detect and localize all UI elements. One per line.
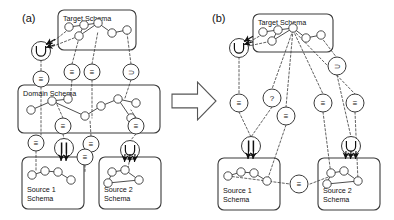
- mapping-arrow: [253, 151, 254, 159]
- mapping-arrow: [130, 154, 131, 162]
- schema-node: [340, 167, 348, 175]
- operator-node[interactable]: [242, 137, 261, 156]
- schema-node: [123, 26, 131, 34]
- mapping-arrow: [351, 151, 352, 159]
- operator-node[interactable]: ≡: [290, 175, 308, 193]
- operator-glyph: ≡: [297, 180, 302, 189]
- operator-glyph: ⊃: [128, 68, 135, 77]
- schema-node: [114, 95, 122, 103]
- schema-node: [80, 21, 88, 29]
- mapping-arrow: [66, 153, 67, 161]
- operator-glyph: ≡: [90, 68, 95, 77]
- operator-node[interactable]: ≡: [277, 107, 295, 125]
- schema-node: [237, 168, 245, 176]
- figure-canvas: Target SchemaDomain SchemaSource 1Schema…: [0, 0, 394, 220]
- schema-node: [75, 32, 83, 40]
- schema-node: [259, 28, 267, 36]
- operator-node[interactable]: ≡: [55, 118, 71, 134]
- schema-mapping-diagram: Target SchemaDomain SchemaSource 1Schema…: [0, 0, 394, 220]
- schema-node: [263, 177, 271, 185]
- operator-node[interactable]: ?: [263, 89, 281, 107]
- operator-glyph: ⊃: [334, 62, 341, 71]
- schema-box: Source 1Schema: [218, 158, 280, 210]
- schema-box-label: Source 1: [223, 186, 252, 195]
- schema-node: [135, 176, 143, 184]
- schema-node: [108, 168, 116, 176]
- schema-box-label: Schema: [223, 195, 249, 204]
- schema-node: [54, 168, 62, 176]
- operator-node[interactable]: [230, 39, 249, 58]
- schema-node: [289, 24, 297, 32]
- operator-node[interactable]: ≡: [346, 94, 364, 112]
- operator-glyph: ≡: [134, 122, 139, 131]
- schema-node: [302, 34, 310, 42]
- schema-node: [28, 171, 36, 179]
- schema-box: Source 1Schema: [22, 157, 84, 209]
- operator-node[interactable]: ≡: [230, 94, 248, 112]
- operator-node[interactable]: ≡: [33, 71, 49, 87]
- schema-node: [354, 177, 362, 185]
- mapping-arrow: [61, 153, 62, 161]
- mapping-arrow: [125, 154, 126, 162]
- schema-node: [27, 106, 35, 114]
- schema-node: [323, 180, 331, 188]
- operator-node[interactable]: ≡: [84, 64, 100, 80]
- operator-glyph: ?: [270, 94, 275, 103]
- mapping-arrow: [346, 151, 347, 159]
- schema-node: [108, 29, 116, 37]
- schema-node: [41, 167, 49, 175]
- union-icon[interactable]: [230, 39, 249, 58]
- schema-node: [97, 102, 105, 110]
- operator-node[interactable]: ≡: [64, 64, 80, 80]
- operator-glyph: ≡: [89, 140, 94, 149]
- operator-node[interactable]: ≡: [77, 149, 93, 165]
- operator-glyph: ≡: [34, 139, 39, 148]
- operator-glyph: ≡: [284, 112, 289, 121]
- schema-node: [327, 169, 335, 177]
- schema-node: [65, 23, 73, 31]
- schema-node: [64, 95, 72, 103]
- operator-glyph: ≡: [61, 122, 66, 131]
- operator-glyph: ≡: [321, 99, 326, 108]
- schema-node: [224, 172, 232, 180]
- schema-node: [274, 26, 282, 34]
- schema-box-label: Schema: [323, 195, 349, 204]
- schema-node: [268, 37, 276, 45]
- schema-node: [132, 99, 140, 107]
- operator-node[interactable]: [32, 42, 51, 61]
- union-icon[interactable]: [32, 42, 51, 61]
- parallel-bars-icon[interactable]: [242, 137, 261, 156]
- operator-glyph: ≡: [353, 99, 358, 108]
- schema-box-label: Schema: [27, 194, 53, 203]
- operator-node[interactable]: ≡: [314, 94, 332, 112]
- operator-node[interactable]: ≡: [28, 135, 44, 151]
- schema-node: [121, 166, 129, 174]
- schema-node: [317, 31, 325, 39]
- schema-box-label: Source 1: [27, 185, 56, 194]
- schema-node: [104, 179, 112, 187]
- schema-box-label: Schema: [104, 194, 130, 203]
- operator-node[interactable]: ≡: [128, 118, 144, 134]
- mapping-arrow: [356, 151, 357, 159]
- operator-glyph: ≡: [39, 75, 44, 84]
- operator-glyph: ≡: [237, 99, 242, 108]
- schema-box-label: Target Schema: [258, 18, 306, 27]
- schema-node: [48, 97, 56, 105]
- schema-node: [250, 169, 258, 177]
- panel-label-a: (a): [22, 12, 35, 24]
- schema-node: [81, 112, 89, 120]
- operator-glyph: ≡: [83, 153, 88, 162]
- mapping-arrow: [135, 154, 136, 162]
- operator-node[interactable]: ⊃: [123, 64, 139, 80]
- operator-glyph: ≡: [70, 68, 75, 77]
- schema-node: [67, 176, 75, 184]
- operator-node[interactable]: ⊃: [328, 57, 346, 75]
- parallel-bars-icon[interactable]: [55, 139, 74, 158]
- operator-node[interactable]: [55, 139, 74, 158]
- mapping-arrow: [248, 151, 249, 159]
- schema-node: [94, 19, 102, 27]
- panel-label-b: (b): [212, 12, 225, 24]
